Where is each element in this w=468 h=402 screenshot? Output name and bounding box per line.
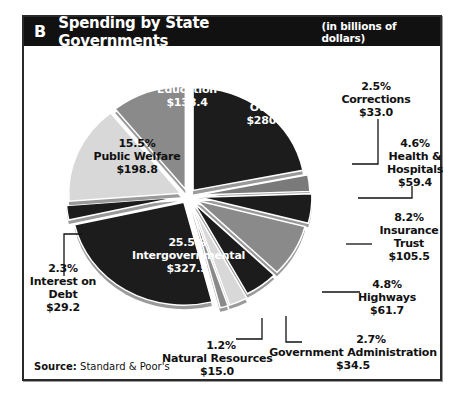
- leader-line: [352, 119, 378, 164]
- source-label: Source:: [34, 361, 77, 372]
- label-corrections: 2.5%Corrections$33.0: [336, 80, 416, 119]
- label-natural-resources: 1.2%Natural Resources$15.0: [162, 339, 272, 378]
- label-highways: 4.8%Highways$61.7: [352, 278, 422, 317]
- leader-line: [236, 318, 262, 339]
- label-public-welfare: 15.5%Public Welfare$198.8: [82, 137, 192, 176]
- label-interest-on-debt: 2.3%Interest onDebt$29.2: [28, 262, 98, 314]
- label-health-hospitals: 4.6%Health &Hospitals$59.4: [380, 137, 450, 189]
- label-other: 21.9%Other$280.9: [232, 88, 302, 127]
- label-education: 10.8%Education$138.4: [152, 70, 222, 109]
- label-insurance-trust: 8.2%InsuranceTrust$105.5: [374, 211, 444, 263]
- label-government-administration: 2.7%Government Administration$34.5: [268, 333, 438, 372]
- source-note: Source: Standard & Poor's: [34, 361, 170, 372]
- source-text: Standard & Poor's: [80, 361, 170, 372]
- label-intergovernmental: 25.5%Intergovernmental$327.5: [132, 236, 242, 275]
